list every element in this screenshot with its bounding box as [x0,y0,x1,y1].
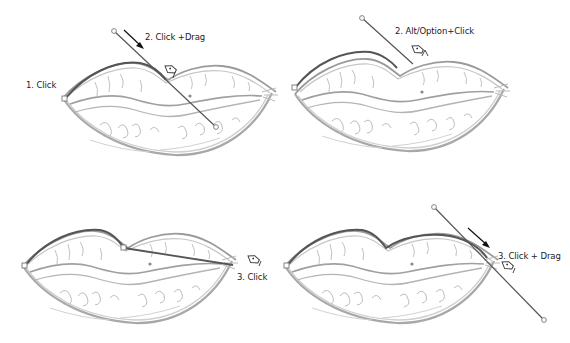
step-3-click-drag-label: 3. Click + Drag [498,251,561,261]
step-2-alt-option-click-label: 2. Alt/Option+Click [395,26,474,36]
traced-segment [124,248,233,265]
pen-cursor-icon [164,62,177,76]
handle-point[interactable] [214,125,219,130]
panel-4 [284,205,546,323]
pen-cursor-icon [247,252,260,266]
traced-path [295,52,397,88]
pen-tool-tutorial-diagram: 1. Click 2. Click +Drag 2. Alt/Option+Cl… [0,0,570,343]
direction-handle [362,18,413,64]
pen-cursor-icon [411,42,424,56]
handle-point[interactable] [112,29,117,34]
direction-handle [434,207,544,320]
direction-handle [114,31,216,127]
panel-3 [22,230,261,323]
handle-point[interactable] [542,318,547,323]
step-3-click-label: 3. Click [237,272,267,282]
panel-1 [62,29,278,155]
anchor-point[interactable] [62,96,67,101]
traced-path [287,230,487,266]
lips-sketch [63,63,278,155]
step-2-click-drag-label: 2. Click +Drag [145,32,205,42]
handle-point[interactable] [432,205,437,210]
anchor-point[interactable] [284,263,289,268]
diagram-canvas [0,0,570,343]
cursor-slash-icon [259,261,261,266]
anchor-point[interactable] [292,85,297,90]
handle-point[interactable] [360,16,365,21]
anchor-point[interactable] [22,263,27,268]
cursor-slash-icon [513,268,515,273]
lips-sketch [295,59,510,151]
anchor-point[interactable] [121,245,126,250]
step-1-click-label: 1. Click [26,80,56,90]
lips-sketch [23,231,238,323]
